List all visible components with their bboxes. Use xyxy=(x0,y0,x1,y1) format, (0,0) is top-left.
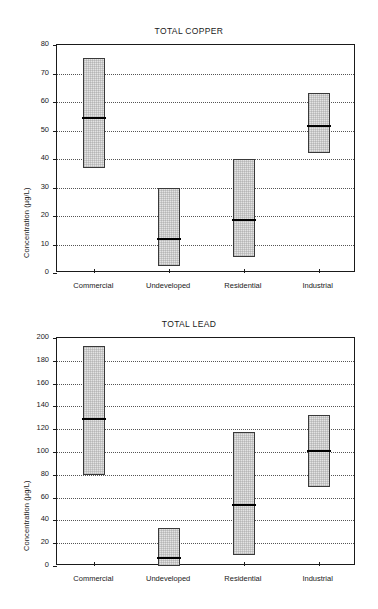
range-box-residential xyxy=(233,159,255,257)
gridline xyxy=(57,188,354,189)
y-axis-tick-mark xyxy=(53,45,57,46)
y-axis-tick-label: 100 xyxy=(23,447,49,455)
x-axis-tick-label-commercial: Commercial xyxy=(73,574,113,583)
y-axis-tick-label: 180 xyxy=(23,356,49,364)
gridline xyxy=(57,543,354,544)
y-axis-tick-label: 70 xyxy=(23,69,49,77)
y-axis-tick-label: 40 xyxy=(23,515,49,523)
median-line-undeveloped xyxy=(157,557,181,559)
y-axis-tick-label: 10 xyxy=(23,240,49,248)
x-axis-tick-mark xyxy=(319,269,320,273)
range-box-commercial xyxy=(83,58,105,168)
y-axis-tick-mark xyxy=(53,498,57,499)
y-axis-tick-mark xyxy=(53,520,57,521)
gridline xyxy=(57,216,354,217)
x-axis-tick-label-commercial: Commercial xyxy=(73,281,113,290)
y-axis-tick-mark xyxy=(53,188,57,189)
copper-chart-figure: TOTAL COPPER Concentration (µg/L) 010203… xyxy=(0,0,378,305)
y-axis-tick-label: 40 xyxy=(23,154,49,162)
y-axis-tick-mark xyxy=(53,159,57,160)
y-axis-tick-label: 0 xyxy=(23,561,49,569)
chart-title-lead: TOTAL LEAD xyxy=(0,319,378,329)
y-axis-tick-mark xyxy=(53,216,57,217)
y-axis-tick-mark xyxy=(53,361,57,362)
y-axis-tick-label: 20 xyxy=(23,211,49,219)
median-line-undeveloped xyxy=(157,238,181,240)
median-line-commercial xyxy=(82,117,106,119)
x-axis-tick-label-undeveloped: Undeveloped xyxy=(146,281,190,290)
x-axis-tick-mark xyxy=(244,562,245,566)
y-axis-tick-label: 80 xyxy=(23,470,49,478)
y-axis-tick-mark xyxy=(53,452,57,453)
y-axis-tick-label: 60 xyxy=(23,493,49,501)
y-axis-tick-label: 0 xyxy=(23,268,49,276)
median-line-residential xyxy=(232,504,256,506)
x-axis-tick-mark xyxy=(94,562,95,566)
y-axis-tick-mark xyxy=(53,338,57,339)
y-axis-tick-label: 50 xyxy=(23,126,49,134)
y-axis-tick-label: 20 xyxy=(23,538,49,546)
y-axis-tick-mark xyxy=(53,475,57,476)
median-line-commercial xyxy=(82,418,106,420)
gridline xyxy=(57,520,354,521)
y-axis-tick-mark xyxy=(53,406,57,407)
y-axis-tick-mark xyxy=(53,74,57,75)
x-axis-tick-mark xyxy=(169,269,170,273)
y-axis-tick-label: 160 xyxy=(23,379,49,387)
x-axis-tick-mark xyxy=(94,269,95,273)
y-axis-tick-mark xyxy=(53,543,57,544)
y-axis-tick-label: 140 xyxy=(23,401,49,409)
median-line-industrial xyxy=(307,450,331,452)
x-axis-tick-label-residential: Residential xyxy=(224,281,261,290)
y-axis-tick-label: 80 xyxy=(23,40,49,48)
range-box-industrial xyxy=(308,93,330,153)
x-axis-tick-label-industrial: Industrial xyxy=(302,281,332,290)
median-line-industrial xyxy=(307,125,331,127)
y-axis-tick-label: 200 xyxy=(23,333,49,341)
y-axis-tick-label: 60 xyxy=(23,97,49,105)
range-box-undeveloped xyxy=(158,528,180,566)
y-axis-tick-mark xyxy=(53,273,57,274)
x-axis-tick-mark xyxy=(319,562,320,566)
gridline xyxy=(57,245,354,246)
range-box-residential xyxy=(233,432,255,555)
x-axis-tick-label-undeveloped: Undeveloped xyxy=(146,574,190,583)
median-line-residential xyxy=(232,219,256,221)
y-axis-tick-mark xyxy=(53,429,57,430)
plot-area-copper xyxy=(56,44,355,272)
range-box-undeveloped xyxy=(158,188,180,266)
y-axis-tick-mark xyxy=(53,384,57,385)
range-box-commercial xyxy=(83,346,105,475)
plot-area-lead xyxy=(56,337,355,565)
y-axis-tick-mark xyxy=(53,566,57,567)
y-axis-tick-mark xyxy=(53,245,57,246)
y-axis-tick-mark xyxy=(53,102,57,103)
gridline xyxy=(57,498,354,499)
y-axis-tick-mark xyxy=(53,131,57,132)
y-axis-tick-label: 30 xyxy=(23,183,49,191)
x-axis-tick-mark xyxy=(244,269,245,273)
y-axis-tick-label: 120 xyxy=(23,424,49,432)
chart-title-copper: TOTAL COPPER xyxy=(0,26,378,36)
lead-chart-figure: TOTAL LEAD Concentration (µg/L) 02040608… xyxy=(0,300,378,609)
x-axis-tick-label-residential: Residential xyxy=(224,574,261,583)
x-axis-tick-label-industrial: Industrial xyxy=(302,574,332,583)
